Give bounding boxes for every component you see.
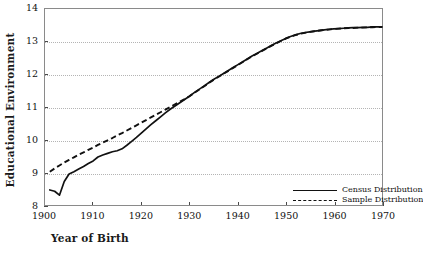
chart-legend: Census Distribution Sample Distribution [293,185,423,205]
series-line-sample [50,27,382,172]
y-tick-label-9: 9 [20,168,38,178]
legend-label-sample: Sample Distribution [342,195,423,205]
series-layer [45,9,382,205]
y-tick-label-11: 11 [20,102,38,112]
y-tick-label-12: 12 [20,69,38,79]
x-tick-label-1950: 1950 [266,211,306,221]
x-tick-label-1920: 1920 [121,211,161,221]
x-tick-label-1970: 1970 [363,211,403,221]
x-tick-label-1910: 1910 [72,211,112,221]
y-tick-label-14: 14 [20,3,38,13]
legend-item-census: Census Distribution [293,185,423,195]
y-tick-mark-8 [44,206,48,207]
y-tick-label-10: 10 [20,135,38,145]
legend-label-census: Census Distribution [342,185,423,195]
legend-swatch-solid-icon [293,186,337,194]
x-axis-title: Year of Birth [30,232,150,244]
x-tick-label-1930: 1930 [169,211,209,221]
x-tick-label-1900: 1900 [24,211,64,221]
plot-area: Census Distribution Sample Distribution [44,8,383,206]
series-line-census [50,27,382,195]
x-tick-label-1960: 1960 [315,211,355,221]
legend-swatch-dashed-icon [293,196,337,204]
y-tick-label-13: 13 [20,36,38,46]
x-tick-label-1940: 1940 [218,211,258,221]
legend-item-sample: Sample Distribution [293,195,423,205]
y-axis-title: Educational Environment [4,15,16,205]
